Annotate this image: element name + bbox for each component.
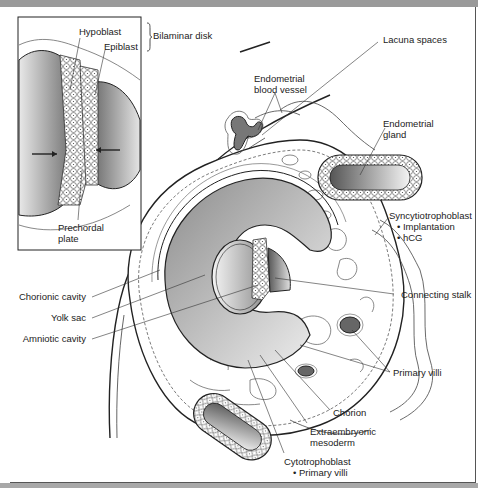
label-chorionic-cavity: Chorionic cavity <box>10 291 86 302</box>
label-epiblast: Epiblast <box>104 41 138 52</box>
label-endometrial-blood-vessel: Endometrial blood vessel <box>254 73 307 95</box>
label-primary-villi: Primary villi <box>393 367 442 378</box>
label-gland-line2: gland <box>383 129 434 140</box>
label-extraembryonic-mesoderm: Extraembryonic mesoderm <box>310 426 376 448</box>
label-endometrial-gland: Endometrial gland <box>383 118 434 140</box>
label-prechordal-plate: Prechordal plate <box>58 222 104 244</box>
label-cytotrophoblast-bullet-primary-villi: Primary villi <box>284 467 351 478</box>
label-mesoderm-line1: Extraembryonic <box>310 426 376 437</box>
endometrial-gland-right <box>318 155 422 200</box>
label-prechordal-line1: Prechordal <box>58 222 104 233</box>
label-syncytio-bullet-implantation: Implantation <box>389 221 472 232</box>
label-syncytio-title: Syncytiotrophoblast <box>389 210 472 221</box>
label-blood-vessel-line1: Endometrial <box>254 73 307 84</box>
label-gland-line1: Endometrial <box>383 118 434 129</box>
label-chorion: Chorion <box>333 407 366 418</box>
label-cytotrophoblast-title: Cytotrophoblast <box>284 456 351 467</box>
label-hypoblast: Hypoblast <box>79 26 121 37</box>
label-yolk-sac: Yolk sac <box>10 312 86 323</box>
label-blood-vessel-line2: blood vessel <box>254 84 307 95</box>
label-bilaminar-disk: Bilaminar disk <box>153 30 212 41</box>
diagram-illustration <box>0 0 478 488</box>
label-connecting-stalk: Connecting stalk <box>401 289 471 300</box>
label-syncytiotrophoblast: Syncytiotrophoblast Implantation hCG <box>389 210 472 243</box>
label-prechordal-line2: plate <box>58 233 104 244</box>
label-cytotrophoblast: Cytotrophoblast Primary villi <box>284 456 351 478</box>
label-lacuna-spaces: Lacuna spaces <box>383 34 447 45</box>
label-amniotic-cavity: Amniotic cavity <box>10 333 86 344</box>
label-syncytio-bullet-hcg: hCG <box>389 232 472 243</box>
label-mesoderm-line2: mesoderm <box>310 437 376 448</box>
